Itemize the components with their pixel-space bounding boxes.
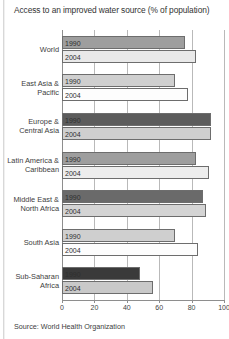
bar-series-label: 1990 [65, 232, 81, 241]
bar-1990[interactable]: 1990 [62, 267, 140, 280]
bar-series-label: 2004 [65, 130, 81, 139]
x-tick-label-60: 60 [155, 304, 163, 311]
bar-row: 2004 [62, 50, 224, 63]
x-tick-label-40: 40 [123, 304, 131, 311]
x-axis-line [62, 300, 225, 301]
bar-row: 1990 [62, 190, 224, 203]
bar-2004[interactable]: 2004 [62, 204, 206, 217]
x-tick-label-100: 100 [218, 304, 229, 311]
x-tick-60 [159, 300, 160, 303]
bar-2004[interactable]: 2004 [62, 127, 211, 140]
x-tick-label-0: 0 [60, 304, 64, 311]
x-tick-100 [224, 300, 225, 303]
bar-row: 2004 [62, 281, 224, 294]
x-tick-label-20: 20 [90, 304, 98, 311]
bar-series-label: 2004 [65, 207, 81, 216]
x-tick-80 [192, 300, 193, 303]
category-label: Latin America & Caribbean [0, 156, 59, 174]
bar-series-label: 1990 [65, 39, 81, 48]
bar-series-label: 2004 [65, 169, 81, 178]
plot-area: 1990200419902004199020041990200419902004… [62, 30, 224, 300]
source-note: Source: World Health Organization [14, 322, 125, 331]
category-label: Sub-Saharan Africa [0, 272, 59, 290]
bar-1990[interactable]: 1990 [62, 74, 175, 87]
x-tick-0 [62, 300, 63, 303]
category-label: South Asia [0, 238, 59, 247]
bar-row: 2004 [62, 243, 224, 256]
bar-2004[interactable]: 2004 [62, 166, 209, 179]
chart-title: Access to an improved water source (% of… [14, 5, 224, 16]
bar-row: 2004 [62, 204, 224, 217]
bar-row: 2004 [62, 88, 224, 101]
bar-row: 1990 [62, 36, 224, 49]
x-tick-40 [127, 300, 128, 303]
bar-row: 2004 [62, 166, 224, 179]
bar-series-label: 1990 [65, 270, 81, 279]
category-label: Middle East & North Africa [0, 195, 59, 213]
category-label: Europe & Central Asia [0, 117, 59, 135]
bar-1990[interactable]: 1990 [62, 152, 196, 165]
bar-1990[interactable]: 1990 [62, 113, 211, 126]
bar-1990[interactable]: 1990 [62, 36, 185, 49]
bar-row: 1990 [62, 267, 224, 280]
bar-1990[interactable]: 1990 [62, 229, 175, 242]
bar-row: 1990 [62, 74, 224, 87]
bar-series-label: 2004 [65, 284, 81, 293]
bar-row: 1990 [62, 113, 224, 126]
chart-figure: Access to an improved water source (% of… [0, 0, 229, 339]
bar-series-label: 1990 [65, 155, 81, 164]
bar-2004[interactable]: 2004 [62, 50, 196, 63]
category-label: East Asia & Pacific [0, 79, 59, 97]
bar-series-label: 2004 [65, 53, 81, 62]
bar-2004[interactable]: 2004 [62, 88, 188, 101]
x-tick-20 [94, 300, 95, 303]
bar-series-label: 2004 [65, 91, 81, 100]
bar-row: 2004 [62, 127, 224, 140]
gridline-100 [224, 30, 225, 300]
bar-2004[interactable]: 2004 [62, 243, 198, 256]
bar-2004[interactable]: 2004 [62, 281, 153, 294]
bar-1990[interactable]: 1990 [62, 190, 203, 203]
bar-series-label: 2004 [65, 246, 81, 255]
bar-series-label: 1990 [65, 193, 81, 202]
bar-row: 1990 [62, 229, 224, 242]
x-tick-label-80: 80 [188, 304, 196, 311]
bar-series-label: 1990 [65, 116, 81, 125]
bar-series-label: 1990 [65, 77, 81, 86]
category-label: World [0, 45, 59, 54]
bar-row: 1990 [62, 152, 224, 165]
